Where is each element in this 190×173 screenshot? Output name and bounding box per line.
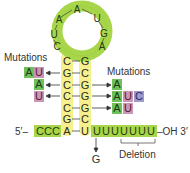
deletion-label: Deletion bbox=[119, 150, 156, 160]
left-mutations-title: Mutations bbox=[4, 53, 47, 63]
loop-nt: A bbox=[97, 41, 107, 52]
loop-nt: U bbox=[92, 13, 102, 24]
mutation-nt: A bbox=[112, 91, 122, 102]
stem-left-nt: C bbox=[62, 91, 72, 102]
rna-hairpin-diagram: A U C A U G A C G G C C G C G C G G C A … bbox=[0, 0, 190, 173]
mutation-nt: U bbox=[34, 67, 44, 78]
five-prime-label: 5′– bbox=[15, 127, 28, 137]
loop-nt: A bbox=[54, 14, 64, 25]
left-mutation-arrows bbox=[46, 71, 60, 98]
loop-nt: A bbox=[72, 4, 82, 15]
mutation-nt: A bbox=[112, 103, 122, 114]
stem-left-nt: A bbox=[62, 126, 72, 137]
three-prime-label: –OH 3′ bbox=[157, 127, 188, 137]
mutation-nt: A bbox=[24, 67, 34, 78]
point-mutation-arrow bbox=[94, 138, 98, 152]
stem-right-nt: C bbox=[80, 114, 90, 125]
loop-nt: G bbox=[99, 28, 109, 39]
deletion-bracket bbox=[121, 139, 155, 146]
loop-nt: U bbox=[49, 29, 59, 40]
mutation-nt: C bbox=[134, 91, 144, 102]
point-mutation-nt: G bbox=[91, 154, 101, 165]
right-mutation-arrows bbox=[92, 83, 111, 110]
mutation-nt: U bbox=[123, 91, 133, 102]
stem-left-nt: G bbox=[62, 68, 72, 79]
stem-left-nt: C bbox=[62, 56, 72, 67]
mutation-nt: U bbox=[123, 103, 133, 114]
stem-right-nt: C bbox=[80, 68, 90, 79]
five-prime-nt: C bbox=[51, 126, 61, 137]
right-mutations-title: Mutations bbox=[107, 67, 150, 77]
loop-nt: C bbox=[52, 41, 62, 52]
mutation-nt: A bbox=[34, 79, 44, 90]
diagram-shapes bbox=[0, 0, 190, 173]
mutation-nt: U bbox=[34, 91, 44, 102]
stem-right-nt: G bbox=[80, 56, 90, 67]
stem-right-nt: U bbox=[80, 126, 90, 137]
pair-bonds bbox=[72, 61, 80, 131]
stem-right-nt: G bbox=[80, 91, 90, 102]
stem-left-nt: G bbox=[62, 114, 72, 125]
mutation-nt: A bbox=[112, 79, 122, 90]
three-prime-nt: U bbox=[146, 126, 156, 137]
